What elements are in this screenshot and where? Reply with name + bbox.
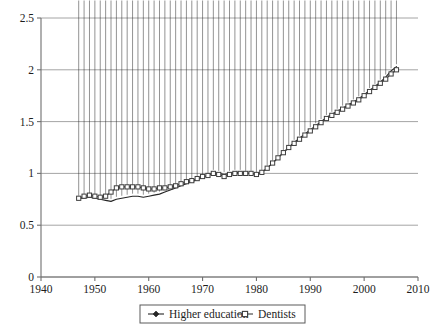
data-point [335, 110, 339, 114]
y-tick-label-1: 1 [28, 167, 34, 179]
legend-label: Dentists [258, 308, 296, 320]
series-dentists [77, 68, 399, 201]
data-point [114, 186, 118, 190]
data-point [384, 77, 388, 81]
series-higher-education [79, 1, 397, 202]
data-point [141, 186, 145, 190]
y-tick-label-0.5: 0.5 [20, 219, 35, 231]
data-point [104, 194, 108, 198]
series-markers-0 [79, 1, 397, 199]
data-point [276, 156, 280, 160]
data-point [195, 176, 199, 180]
data-point [168, 185, 172, 189]
data-point [265, 166, 269, 170]
data-point [378, 81, 382, 85]
data-point [341, 107, 345, 111]
data-point [179, 182, 183, 186]
data-point [109, 190, 113, 194]
chart-container: 00.511.522.5 194019501960197019801990200… [0, 0, 438, 333]
data-point [136, 185, 140, 189]
x-tick-label-1960: 1960 [137, 283, 160, 295]
data-point [244, 171, 248, 175]
data-point [303, 133, 307, 137]
x-tick-label-1950: 1950 [83, 283, 106, 295]
data-point [174, 184, 178, 188]
data-point [362, 94, 366, 98]
data-point [238, 171, 242, 175]
x-tick-label-1970: 1970 [191, 283, 214, 295]
data-point [82, 194, 86, 198]
data-point [389, 72, 393, 76]
y-tick-label-2: 2 [28, 64, 34, 76]
data-point [351, 101, 355, 105]
y-tick-labels: 00.511.522.5 [20, 12, 35, 283]
line-chart: 00.511.522.5 194019501960197019801990200… [0, 0, 438, 333]
data-point [367, 89, 371, 93]
y-tick-label-0: 0 [28, 271, 34, 283]
data-point [319, 121, 323, 125]
data-point [287, 145, 291, 149]
x-tick-label-1980: 1980 [245, 283, 268, 295]
data-point [217, 172, 221, 176]
data-point [314, 125, 318, 129]
data-point [200, 174, 204, 178]
data-point [77, 196, 81, 200]
legend-label: Higher education [169, 308, 249, 321]
data-point [254, 172, 258, 176]
series-line-1 [79, 70, 397, 198]
data-point [130, 185, 134, 189]
data-point [249, 171, 253, 175]
data-point [373, 85, 377, 89]
data-point [125, 185, 129, 189]
series-line-0 [79, 67, 397, 202]
data-point [147, 187, 151, 191]
x-tick-label-2010: 2010 [407, 283, 430, 295]
x-tick-label-2000: 2000 [353, 283, 376, 295]
data-series [77, 1, 399, 202]
data-point [206, 173, 210, 177]
data-point [120, 185, 124, 189]
series-markers-1 [77, 68, 399, 201]
data-point [222, 174, 226, 178]
data-point [190, 179, 194, 183]
data-point [297, 137, 301, 141]
data-point [260, 170, 264, 174]
x-tick-label-1990: 1990 [299, 283, 322, 295]
data-point [87, 193, 91, 197]
chart-legend: Higher educationDentists [140, 305, 305, 323]
data-point [394, 68, 398, 72]
data-point [346, 104, 350, 108]
data-point [233, 171, 237, 175]
y-tick-marks [37, 18, 41, 277]
data-point [270, 161, 274, 165]
y-tick-label-2.5: 2.5 [20, 12, 35, 24]
x-tick-label-1940: 1940 [30, 283, 53, 295]
x-axis [41, 277, 418, 281]
data-point [281, 151, 285, 155]
data-point [308, 129, 312, 133]
data-point [157, 186, 161, 190]
legend-square-marker-icon [242, 311, 247, 316]
data-point [163, 186, 167, 190]
data-point [292, 141, 296, 145]
data-point [324, 116, 328, 120]
data-point [98, 195, 102, 199]
y-tick-label-1.5: 1.5 [20, 116, 35, 128]
data-point [357, 98, 361, 102]
data-point [93, 194, 97, 198]
data-point [152, 187, 156, 191]
data-point [227, 172, 231, 176]
data-point [330, 113, 334, 117]
data-point [211, 171, 215, 175]
data-point [184, 180, 188, 184]
x-tick-labels: 19401950196019701980199020002010 [30, 283, 430, 295]
